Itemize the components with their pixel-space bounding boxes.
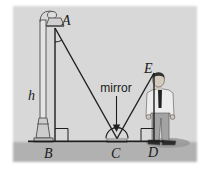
point-label-B: B bbox=[44, 146, 53, 161]
lamppost-lamp-top bbox=[48, 12, 57, 19]
point-label-C: C bbox=[111, 146, 121, 161]
person-tie bbox=[158, 89, 162, 108]
mirror-label: mirror bbox=[100, 81, 131, 95]
person-hand-right bbox=[170, 115, 175, 120]
person-shoe-right bbox=[162, 140, 176, 145]
lamppost-pole bbox=[40, 20, 46, 124]
point-label-D: D bbox=[147, 145, 158, 160]
mirror-diagram-canvas: A h B C D E mirror bbox=[0, 0, 202, 173]
point-label-E: E bbox=[143, 61, 153, 76]
pole-height-label: h bbox=[28, 88, 35, 103]
person-hand-left bbox=[146, 115, 151, 120]
point-label-A: A bbox=[61, 13, 71, 28]
geometry-figure: A h B C D E mirror bbox=[0, 0, 202, 173]
lamppost-base bbox=[36, 118, 50, 138]
